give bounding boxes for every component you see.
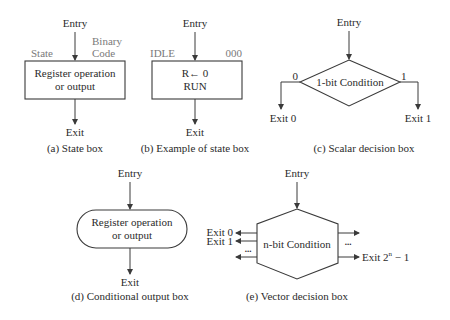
entry-label: Entry — [118, 167, 143, 179]
exit-last-suffix: − 1 — [392, 251, 409, 263]
exit-label: Exit — [121, 276, 139, 288]
caption-c: (c) Scalar decision box — [313, 142, 415, 155]
exit-1-label: Exit 1 — [405, 112, 432, 124]
condition-text: n-bit Condition — [263, 238, 331, 250]
box-text-line1: Register operation — [35, 67, 116, 79]
entry-label: Entry — [63, 17, 88, 29]
conditional-output-figure: Entry Register operation or output Exit … — [71, 167, 189, 303]
box-text-line1: R← 0 — [182, 67, 209, 79]
caption-a: (a) State box — [47, 142, 104, 155]
exit-label: Exit — [66, 126, 84, 138]
vector-decision-figure: Entry n-bit Condition Exit 0 Exit 1 ... … — [206, 167, 409, 303]
binary-code-label: 000 — [226, 47, 243, 59]
box-text-line1: Register operation — [92, 216, 173, 228]
state-box-example-figure: Entry IDLE 000 R← 0 RUN Exit (b) Example… — [141, 17, 250, 155]
exit-last-prefix: Exit 2 — [362, 251, 389, 263]
state-name-label: IDLE — [150, 47, 175, 59]
exit-0-arrow — [281, 82, 300, 109]
branch-1-label: 1 — [401, 70, 407, 82]
entry-label: Entry — [183, 17, 208, 29]
caption-b: (b) Example of state box — [141, 142, 250, 155]
code-label: Code — [92, 47, 115, 59]
entry-label: Entry — [337, 16, 362, 28]
right-ellipsis: ... — [345, 237, 352, 247]
exit-last-label: Exit 2n − 1 — [362, 250, 409, 263]
exit-label: Exit — [186, 126, 204, 138]
exit-1-arrow — [400, 82, 418, 109]
box-text-line2: RUN — [183, 80, 206, 92]
entry-label: Entry — [285, 167, 310, 179]
box-text-line2: or output — [112, 229, 152, 241]
box-text-line2: or output — [55, 80, 95, 92]
caption-e: (e) Vector decision box — [246, 290, 349, 303]
state-label: State — [31, 47, 53, 59]
asm-chart-symbols-diagram: Entry State Binary Code Register operati… — [0, 0, 450, 320]
exit-0-label: Exit 0 — [270, 112, 297, 124]
condition-text: 1-bit Condition — [316, 76, 384, 88]
binary-label: Binary — [92, 35, 122, 47]
exit-1-label: Exit 1 — [206, 235, 233, 247]
state-box-figure: Entry State Binary Code Register operati… — [25, 17, 125, 155]
scalar-decision-figure: Entry 1-bit Condition 0 1 Exit 0 Exit 1 … — [270, 16, 432, 155]
caption-d: (d) Conditional output box — [71, 290, 189, 303]
left-ellipsis: ... — [245, 244, 252, 254]
branch-0-label: 0 — [293, 70, 299, 82]
